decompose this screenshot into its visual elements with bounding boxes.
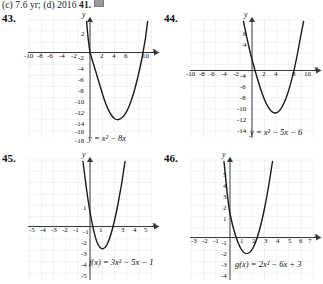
x-axis-label-45: x [152, 220, 156, 229]
y-tick-46-5: -1 [221, 239, 227, 247]
problem-45: 45. x y -5 -4 -3 -2 -1 [0, 150, 161, 284]
x-tick-43-1: -8 [37, 52, 43, 60]
x-tick-46-7: 5 [288, 237, 292, 245]
x-tick-43-4: -2 [71, 52, 77, 60]
x-tick-44-3: -4 [221, 70, 227, 78]
graph-43: x y -10 -8 -6 -4 -2 2 4 6 10 2 -2 -4 -6 … [26, 16, 160, 140]
y-tick-46-3: 2 [223, 204, 227, 212]
x-tick-44-4: -2 [233, 70, 239, 78]
equation-label-45: f(x) = 3x² − 5x − 1 [89, 257, 154, 267]
x-tick-45-5: 1 [99, 226, 103, 234]
x-tick-45-2: -3 [51, 226, 57, 234]
y-tick-45-4: -4 [81, 261, 87, 269]
y-tick-44-5: -10 [237, 105, 246, 113]
y-tick-46-4: 1 [223, 215, 227, 223]
textbook-page: (c) 7.6 yr; (d) 2016 41. 43. [0, 0, 323, 284]
equation-label-43: y = x² − 8x [88, 133, 126, 143]
x-tick-45-3: -2 [62, 226, 68, 234]
x-tick-45-7: 4 [133, 226, 137, 234]
header-next-number: 41. [79, 0, 91, 10]
x-tick-43-2: -6 [47, 52, 53, 60]
y-tick-45-3: -3 [81, 250, 87, 258]
y-axis-label-43: y [82, 10, 86, 19]
equation-label-44: y = x² − 5x − 6 [250, 127, 302, 137]
x-tick-46-5: 3 [264, 237, 268, 245]
y-tick-43-9: -18 [75, 137, 84, 145]
header-answer-text: (c) 7.6 yr; (d) 2016 [2, 0, 77, 10]
x-tick-44-0: -10 [186, 70, 195, 78]
x-tick-45-4: -1 [73, 226, 79, 234]
y-tick-43-0: 2 [81, 30, 85, 38]
graph-45: x y -5 -4 -3 -2 -1 1 3 4 5 1 -1 -2 -3 -4… [26, 156, 160, 282]
x-tick-43-5: 2 [100, 52, 104, 60]
x-tick-45-1: -4 [40, 226, 46, 234]
y-tick-43-2: -4 [78, 65, 84, 73]
x-axis-label-43: x [152, 46, 156, 55]
graph-46: x y -3 -2 -1 1 2 3 4 5 6 7 5 4 3 2 1 -1 … [188, 156, 322, 282]
problem-44: 44. x y -10 -8 -6 -4 -2 [162, 10, 323, 142]
x-tick-46-1: -2 [202, 237, 208, 245]
y-tick-43-5: -10 [75, 98, 84, 106]
problem-number-44: 44. [164, 12, 178, 24]
problem-46: 46. x y -3 -2 -1 1 2 [162, 150, 323, 284]
y-tick-44-3: -6 [240, 83, 246, 91]
x-axis-label-44: x [314, 64, 318, 73]
equation-label-46: g(x) = 2x² − 6x + 3 [235, 259, 302, 269]
x-tick-44-1: -8 [199, 70, 205, 78]
y-tick-46-1: 4 [223, 182, 227, 190]
x-tick-46-2: -1 [213, 237, 219, 245]
x-tick-44-5: 2 [262, 70, 266, 78]
y-tick-44-1: 4 [243, 41, 247, 49]
x-tick-44-2: -6 [209, 70, 215, 78]
x-tick-46-4: 2 [252, 237, 256, 245]
graph-44: x y -10 -8 -6 -4 -2 2 4 8 10 6 4 -4 -6 -… [188, 16, 322, 140]
problem-number-46: 46. [164, 152, 178, 164]
x-tick-43-6: 4 [112, 52, 116, 60]
y-tick-46-7: -3 [221, 261, 227, 269]
x-tick-43-3: -4 [59, 52, 65, 60]
y-tick-46-0: 5 [223, 171, 227, 179]
y-tick-43-4: -8 [78, 87, 84, 95]
y-tick-46-6: -2 [221, 250, 227, 258]
problem-number-45: 45. [2, 152, 16, 164]
y-tick-44-2: -4 [240, 72, 246, 80]
y-tick-43-3: -6 [78, 76, 84, 84]
y-tick-44-7: -14 [237, 127, 246, 135]
x-tick-45-6: 3 [121, 226, 125, 234]
y-tick-46-8: -4 [221, 272, 227, 280]
y-tick-45-1: -1 [83, 228, 89, 236]
x-tick-46-6: 4 [276, 237, 280, 245]
x-tick-44-8: 10 [304, 70, 311, 78]
y-tick-44-0: 6 [243, 30, 247, 38]
y-tick-43-8: -16 [75, 128, 84, 136]
y-axis-label-45: y [82, 150, 86, 159]
y-axis-label-46: y [222, 150, 226, 159]
y-tick-43-6: -12 [75, 109, 84, 117]
x-tick-44-6: 4 [274, 70, 278, 78]
y-tick-43-7: -14 [75, 120, 84, 128]
problem-43: 43. x y [0, 10, 161, 142]
y-axis-label-44: y [244, 10, 248, 19]
x-tick-46-3: 1 [240, 237, 244, 245]
y-tick-43-1: -2 [78, 54, 84, 62]
graph-43-svg [26, 16, 160, 140]
y-tick-46-2: 3 [223, 193, 227, 201]
x-tick-46-9: 7 [308, 237, 312, 245]
x-tick-45-0: -5 [29, 226, 35, 234]
y-tick-45-2: -2 [81, 239, 87, 247]
x-tick-43-8: 10 [142, 52, 149, 60]
problem-number-43: 43. [2, 12, 16, 24]
y-tick-45-5: -5 [81, 272, 87, 280]
x-tick-46-0: -3 [191, 237, 197, 245]
x-tick-45-8: 5 [144, 226, 148, 234]
page-header: (c) 7.6 yr; (d) 2016 41. [2, 0, 104, 10]
y-tick-45-0: 1 [83, 204, 87, 212]
media-icon [94, 0, 104, 7]
graph-44-svg [188, 16, 322, 140]
x-tick-43-7: 6 [124, 52, 128, 60]
y-tick-44-4: -8 [240, 94, 246, 102]
x-tick-44-7: 8 [292, 70, 296, 78]
x-axis-label-46: x [314, 231, 318, 240]
x-tick-43-0: -10 [24, 52, 33, 60]
x-tick-46-8: 6 [299, 237, 303, 245]
